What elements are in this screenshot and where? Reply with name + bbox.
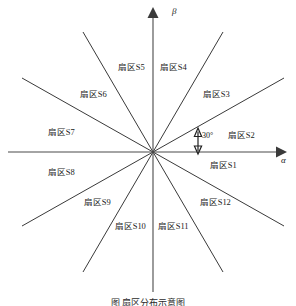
sector-label-s3: 扇区S3 [203, 90, 230, 99]
sector-label-s2: 扇区S2 [228, 131, 255, 140]
sector-label-s9: 扇区S9 [84, 198, 111, 207]
angle-annotation-label: 30° [202, 131, 213, 140]
figure-caption: 图 扇区分布示意图 [0, 296, 296, 306]
beta-axis-label: β [172, 6, 176, 16]
sector-label-s1: 扇区S1 [210, 161, 237, 170]
alpha-axis-label: α [281, 155, 286, 165]
sector-diagram-canvas [0, 0, 296, 306]
sector-label-s6: 扇区S6 [80, 90, 107, 99]
sector-label-s12: 扇区S12 [200, 198, 231, 207]
sector-label-s10: 扇区S10 [115, 222, 146, 231]
sector-diagram-figure: β α 30° 扇区S1 扇区S2 扇区S3 扇区S4 扇区S5 扇区S6 扇区… [0, 0, 296, 306]
beta-axis-arrow-icon [148, 7, 159, 18]
sector-label-s11: 扇区S11 [158, 222, 188, 231]
sector-label-s8: 扇区S8 [48, 168, 75, 177]
sector-label-s7: 扇区S7 [48, 128, 75, 137]
sector-label-s5: 扇区S5 [118, 63, 145, 72]
sector-label-s4: 扇区S4 [160, 63, 187, 72]
